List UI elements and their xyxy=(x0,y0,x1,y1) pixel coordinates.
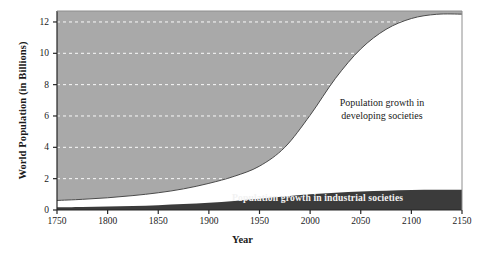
x-tick-label-1950: 1950 xyxy=(235,216,285,226)
x-axis-title: Year xyxy=(0,234,485,245)
x-tick-label-1900: 1900 xyxy=(184,216,234,226)
x-tick-label-1850: 1850 xyxy=(133,216,183,226)
y-tick-label-4: 4 xyxy=(23,142,49,152)
x-tick-label-2000: 2000 xyxy=(285,216,335,226)
annotation-developing-line2: developing societies xyxy=(312,110,452,123)
annotation-developing-societies: Population growth in developing societie… xyxy=(312,97,452,122)
x-tick-label-1750: 1750 xyxy=(32,216,82,226)
annotation-industrial-societies: Population growth in industrial societie… xyxy=(232,192,403,203)
y-tick-label-10: 10 xyxy=(23,48,49,58)
x-tick-label-2100: 2100 xyxy=(386,216,436,226)
annotation-developing-line1: Population growth in xyxy=(312,97,452,110)
y-tick-label-12: 12 xyxy=(23,17,49,27)
chart-figure: World Population (in Billions) 024681012… xyxy=(0,0,485,261)
y-tick-label-2: 2 xyxy=(23,174,49,184)
x-tick-label-1800: 1800 xyxy=(83,216,133,226)
y-tick-label-6: 6 xyxy=(23,111,49,121)
x-tick-label-2150: 2150 xyxy=(437,216,485,226)
x-tick-label-2050: 2050 xyxy=(336,216,386,226)
y-tick-label-0: 0 xyxy=(23,205,49,215)
y-tick-label-8: 8 xyxy=(23,80,49,90)
